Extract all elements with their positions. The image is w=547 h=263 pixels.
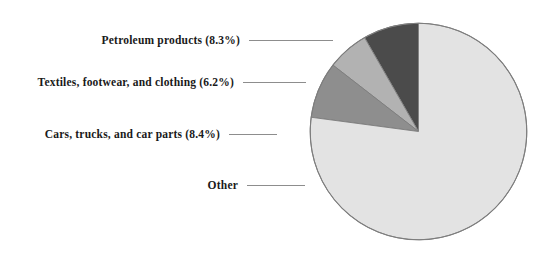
leader-line-other (247, 185, 305, 186)
leader-line-textiles (243, 82, 306, 83)
pie-label-petroleum: Petroleum products (8.3%) (102, 35, 240, 47)
pie-graphic (309, 22, 528, 241)
pie-label-cars: Cars, trucks, and car parts (8.4%) (45, 129, 220, 141)
pie-svg (309, 22, 528, 241)
pie-label-other: Other (208, 180, 238, 192)
pie-chart-figure: Petroleum products (8.3%) Textiles, foot… (0, 0, 547, 263)
leader-line-cars (229, 134, 277, 135)
pie-label-textiles: Textiles, footwear, and clothing (6.2%) (38, 77, 234, 89)
